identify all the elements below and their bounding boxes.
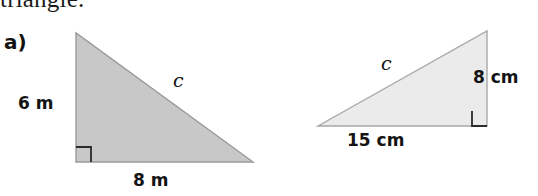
side-label-b-horizontal-leg: 15 cm xyxy=(347,130,404,150)
figure-page: triangle. a) 6 m 8 m c b) 8 cm 15 cm c xyxy=(0,0,538,196)
triangle-b-drawing xyxy=(269,0,538,196)
triangle-a-shape xyxy=(76,33,253,162)
figure-b: b) 8 cm 15 cm c xyxy=(269,0,538,196)
side-label-b-hypotenuse: c xyxy=(381,53,392,73)
side-label-b-vertical-leg: 8 cm xyxy=(473,67,519,87)
side-label-a-horizontal-leg: 8 m xyxy=(133,170,168,190)
side-label-a-vertical-leg: 6 m xyxy=(18,93,53,113)
side-label-a-hypotenuse: c xyxy=(173,70,184,90)
triangle-b-shape xyxy=(318,31,487,126)
figure-a: a) 6 m 8 m c xyxy=(0,0,269,196)
